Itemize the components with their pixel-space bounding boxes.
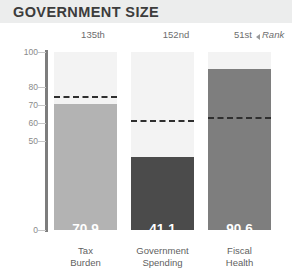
y-tick-0 — [38, 230, 46, 231]
category-label-line-1: Government — [125, 245, 200, 257]
bar-value-tax-burden: 70.9 — [54, 221, 117, 236]
rank-row: 135th 152nd 51st Rank — [0, 29, 292, 43]
y-tick-label-60: 60 — [29, 118, 38, 128]
category-label-line-2: Health — [202, 257, 277, 269]
bar-value-government-spending: 41.1 — [131, 221, 194, 236]
y-tick-100 — [38, 52, 46, 53]
y-tick-70 — [38, 105, 46, 106]
rank-label-government-spending: 152nd — [137, 29, 215, 40]
left-caret-icon — [256, 34, 260, 40]
bar-government-spending[interactable] — [131, 157, 194, 230]
category-label-line-2: Spending — [125, 257, 200, 269]
category-label-tax-burden: Tax Burden — [48, 245, 123, 268]
y-tick-label-70: 70 — [29, 100, 38, 110]
y-tick-label-0: 0 — [33, 225, 38, 235]
reference-line-government-spending — [131, 120, 194, 122]
y-tick-80 — [38, 87, 46, 88]
bar-fiscal-health[interactable] — [208, 69, 271, 230]
rank-label-tax-burden: 135th — [54, 29, 132, 40]
bar-chart: 135th 152nd 51st Rank 100 80 70 60 50 0 … — [0, 0, 292, 277]
category-label-line-1: Tax — [48, 245, 123, 257]
reference-line-fiscal-health — [208, 117, 271, 119]
y-tick-label-100: 100 — [24, 47, 38, 57]
category-label-fiscal-health: Fiscal Health — [202, 245, 277, 268]
category-label-line-1: Fiscal — [202, 245, 277, 257]
rank-axis-note: Rank — [262, 29, 284, 40]
y-tick-label-80: 80 — [29, 82, 38, 92]
y-tick-50 — [38, 141, 46, 142]
bar-tax-burden[interactable] — [54, 104, 117, 230]
reference-line-tax-burden — [54, 96, 117, 98]
y-tick-label-50: 50 — [29, 136, 38, 146]
category-label-line-2: Burden — [48, 257, 123, 269]
y-tick-60 — [38, 123, 46, 124]
category-label-government-spending: Government Spending — [125, 245, 200, 268]
bar-value-fiscal-health: 90.6 — [208, 221, 271, 236]
